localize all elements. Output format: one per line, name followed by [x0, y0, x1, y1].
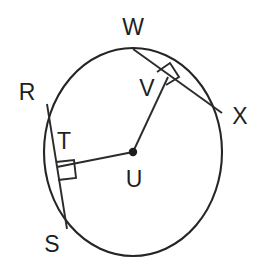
point-label-u: U	[126, 166, 143, 192]
point-label-v: V	[139, 75, 155, 101]
point-label-w: W	[122, 14, 144, 40]
geometry-diagram-canvas: W V X R T U S	[0, 0, 265, 272]
radius-ut	[57, 152, 133, 167]
point-label-t: T	[57, 128, 71, 154]
center-point-dot-u	[129, 148, 137, 156]
point-label-r: R	[19, 79, 36, 105]
circle-geometry-figure: W V X R T U S	[0, 0, 265, 272]
point-label-s: S	[44, 231, 59, 257]
point-label-x: X	[232, 103, 247, 129]
